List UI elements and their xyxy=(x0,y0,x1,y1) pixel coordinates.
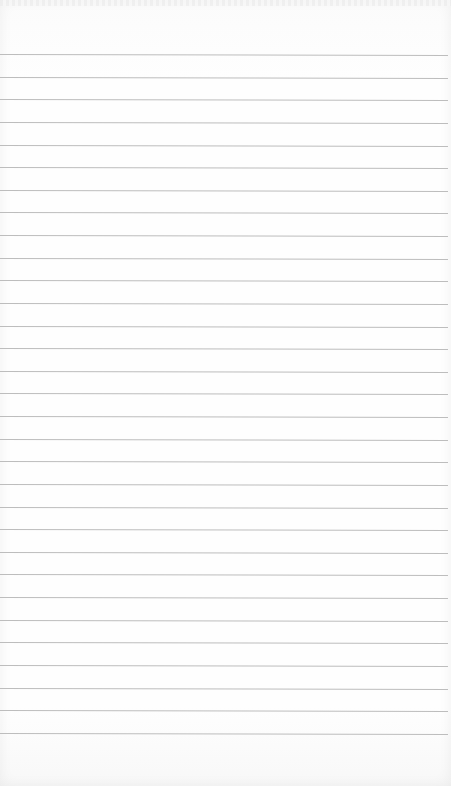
ruled-line xyxy=(0,665,448,667)
ruled-line xyxy=(0,54,448,56)
ruled-line xyxy=(0,710,448,712)
ruled-line xyxy=(0,529,448,531)
ruled-line xyxy=(0,688,448,690)
ruled-line xyxy=(0,507,448,509)
ruled-line xyxy=(0,597,448,599)
ruled-lines xyxy=(0,0,451,786)
ruled-line xyxy=(0,642,448,644)
ruled-line xyxy=(0,99,448,101)
ruled-line xyxy=(0,371,448,373)
ruled-line xyxy=(0,190,448,192)
ruled-line xyxy=(0,574,448,576)
ruled-line xyxy=(0,733,448,735)
ruled-line xyxy=(0,258,448,260)
ruled-line xyxy=(0,552,448,554)
ruled-line xyxy=(0,303,448,305)
ruled-line xyxy=(0,122,448,124)
ruled-line xyxy=(0,167,448,169)
ruled-line xyxy=(0,439,448,441)
ruled-line xyxy=(0,620,448,622)
ruled-line xyxy=(0,484,448,486)
ruled-line xyxy=(0,145,448,147)
ruled-line xyxy=(0,326,448,328)
ruled-line xyxy=(0,280,448,282)
ruled-line xyxy=(0,212,448,214)
lined-paper-page xyxy=(0,0,451,786)
ruled-line xyxy=(0,235,448,237)
ruled-line xyxy=(0,416,448,418)
ruled-line xyxy=(0,77,448,79)
ruled-line xyxy=(0,348,448,350)
ruled-line xyxy=(0,393,448,395)
ruled-line xyxy=(0,461,448,463)
